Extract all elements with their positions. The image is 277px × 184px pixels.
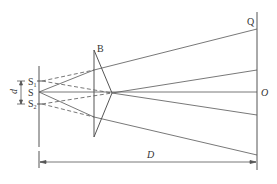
biprism-diagram: S1 S S2 d B Q O D: [0, 0, 277, 184]
label-s: S: [28, 87, 34, 98]
distance-dimension: [40, 161, 256, 164]
solid-rays: [39, 29, 257, 155]
label-d: d: [8, 88, 19, 94]
label-o: O: [261, 87, 268, 98]
label-q: Q: [247, 16, 255, 27]
label-s2: S2: [28, 98, 37, 110]
label-biprism: B: [97, 43, 104, 54]
label-distance: D: [146, 149, 155, 160]
